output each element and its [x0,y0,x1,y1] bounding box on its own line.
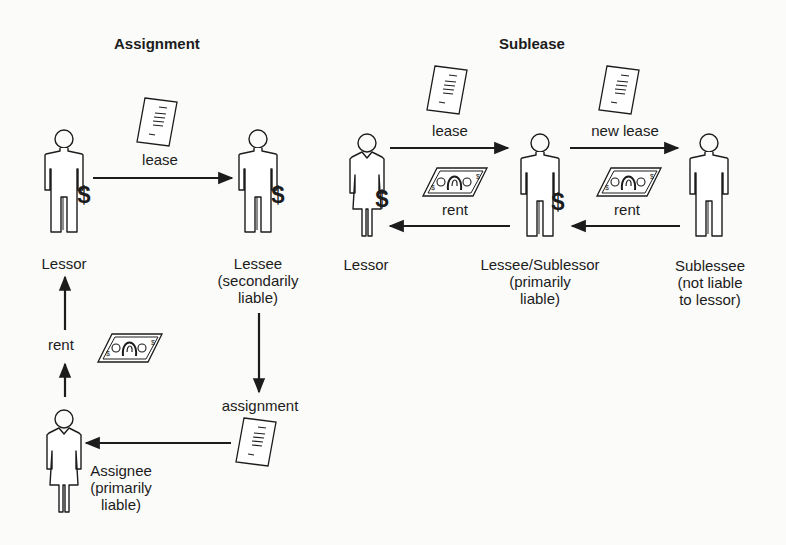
sublease-lessor-label: Lessor [330,256,402,273]
assignment-lessor-dollar: $ [74,186,94,203]
assignment-title: Assignment [114,35,200,52]
sublease-rent-label-2: rent [597,201,657,218]
sublease-new-lease-label: new lease [570,122,680,139]
sublease-rent-bill-icon-2 [597,168,661,196]
assignment-lessee-dollar: $ [268,186,288,203]
sublessor-dollar: $ [548,193,568,210]
sublease-lease-document-icon [427,66,467,114]
assignee-label: Assignee (primarily liable) [76,462,166,513]
assignment-transfer-label: assignment [205,397,315,414]
assignment-lease-label: lease [130,151,190,168]
sublease-title: Sublease [499,35,565,52]
sublease-rent-label-1: rent [425,201,485,218]
sublessor-figure-icon [521,134,559,236]
assignment-document-icon [236,418,276,466]
assignment-rent-bill-icon [98,334,162,362]
sublessee-label: Sublessee (not liable to lessor) [660,257,760,308]
assignment-rent-label: rent [48,336,98,353]
sublessor-label: Lessee/Sublessor (primarily liable) [460,256,620,307]
sublease-lease-label: lease [420,122,480,139]
assignment-lease-document-icon [137,98,177,146]
sublessee-figure-icon [690,134,728,236]
sublease-rent-bill-icon-1 [423,168,487,196]
assignment-lessor-label: Lessor [24,255,104,272]
assignment-lessee-label: Lessee (secondarily liable) [198,255,318,306]
sublease-lessor-dollar: $ [372,190,392,207]
sublease-new-lease-document-icon [599,66,639,114]
